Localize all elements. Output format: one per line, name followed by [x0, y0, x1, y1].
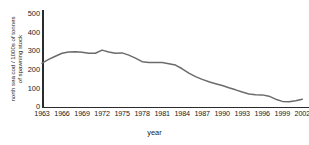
y-tick-label: 500 [14, 10, 40, 17]
x-axis-title: year [0, 128, 309, 137]
x-tick-label: 1972 [94, 110, 109, 118]
x-tick-label: 1969 [74, 110, 89, 118]
x-tick-label: 1996 [255, 110, 270, 118]
y-axis-tick-labels: 0100200300400500 [10, 0, 40, 145]
y-tick-label: 100 [14, 85, 40, 92]
x-tick-label: 1984 [174, 110, 189, 118]
x-tick-label: 2002 [295, 110, 309, 118]
x-tick-label: 1975 [114, 110, 129, 118]
x-tick-label: 1963 [34, 110, 49, 118]
x-tick-label: 1990 [215, 110, 230, 118]
x-tick-label: 1987 [194, 110, 209, 118]
x-axis-tick-labels: 1963196619691972197519781981198419871990… [0, 110, 309, 122]
x-tick-label: 1999 [275, 110, 290, 118]
y-tick-label: 200 [14, 66, 40, 73]
data-line-north-sea-cod [42, 50, 302, 102]
series-plot-area [42, 10, 309, 107]
y-tick-label: 400 [14, 29, 40, 36]
x-tick-label: 1966 [54, 110, 69, 118]
chart-container: north sea cod / 1000s of tonnes of spawn… [0, 0, 309, 145]
x-tick-label: 1978 [134, 110, 149, 118]
y-tick-label: 300 [14, 47, 40, 54]
x-tick-label: 1981 [154, 110, 169, 118]
x-tick-label: 1993 [235, 110, 250, 118]
